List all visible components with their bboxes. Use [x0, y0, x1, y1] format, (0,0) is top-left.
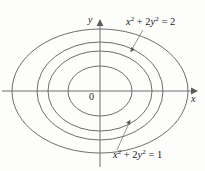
outer-equation-label: x2 + 2y2 = 2: [126, 17, 175, 28]
outer-eq-equals: = 2: [159, 16, 175, 27]
inner-equation-label: x2 + 2y2 = 1: [113, 150, 162, 161]
axes-group: [2, 19, 198, 167]
level-curves-figure: y x 0 x2 + 2y2 = 2 x2 + 2y2 = 1: [0, 0, 205, 171]
origin-label: 0: [89, 92, 94, 102]
y-axis-label: y: [88, 15, 92, 25]
x-axis-label: x: [191, 94, 195, 104]
leader-line-outer-equation: [132, 30, 143, 49]
y-axis-arrow-icon: [97, 19, 104, 26]
inner-eq-plus: + 2: [121, 149, 137, 160]
outer-eq-plus: + 2: [134, 16, 150, 27]
inner-eq-equals: = 1: [146, 149, 162, 160]
